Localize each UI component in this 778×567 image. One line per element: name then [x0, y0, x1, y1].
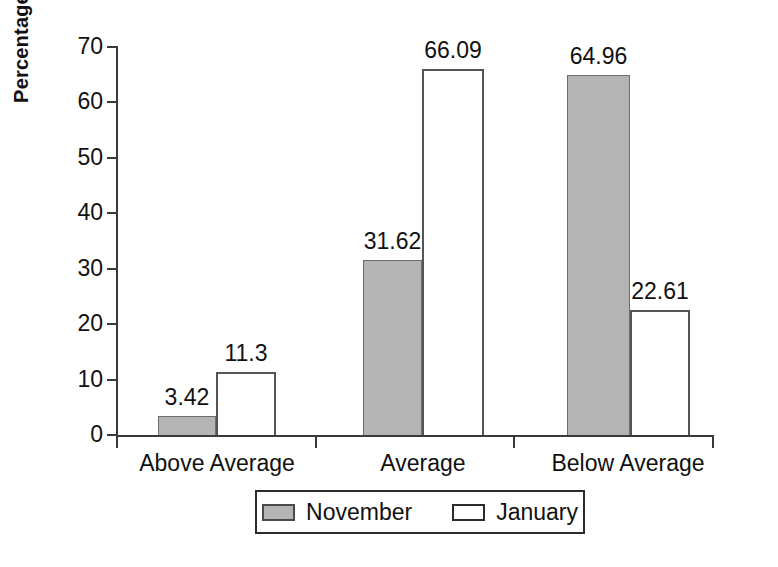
y-tick-label: 0: [43, 423, 103, 446]
y-tick-60: [107, 101, 117, 103]
bar-november-average: [363, 260, 422, 435]
y-tick-label: 60: [43, 90, 103, 113]
y-tick-50: [107, 157, 117, 159]
y-tick-20: [107, 323, 117, 325]
x-axis-line: [116, 435, 714, 437]
category-label-below-average: Below Average: [508, 450, 748, 476]
y-tick-label: 50: [43, 146, 103, 169]
y-tick-label: 10: [43, 368, 103, 391]
y-tick-label: 40: [43, 201, 103, 224]
bar-value-label: 22.61: [605, 280, 715, 303]
y-tick-70: [107, 46, 117, 48]
legend-item-november: November: [262, 501, 412, 524]
legend-item-january: January: [452, 501, 578, 524]
y-tick-10: [107, 379, 117, 381]
x-tick: [116, 437, 118, 448]
y-tick-label: 20: [43, 312, 103, 335]
bar-january-average: [422, 69, 484, 435]
chart-legend: NovemberJanuary: [255, 490, 585, 534]
bar-november-below-average: [567, 75, 630, 435]
bar-value-label: 66.09: [398, 39, 508, 62]
category-label-average: Average: [303, 450, 543, 476]
y-axis-title: Percentage of Students: [4, 0, 38, 134]
y-tick-0: [107, 434, 117, 436]
y-tick-label: 70: [43, 35, 103, 58]
bar-january-above-average: [216, 372, 276, 435]
y-tick-30: [107, 268, 117, 270]
legend-swatch-january: [452, 504, 485, 521]
x-tick: [712, 437, 714, 448]
legend-label: November: [306, 501, 412, 524]
x-tick: [513, 437, 515, 448]
bar-value-label: 64.96: [544, 45, 654, 68]
bar-value-label: 11.3: [191, 342, 301, 365]
legend-label: January: [496, 501, 578, 524]
y-tick-label: 30: [43, 257, 103, 280]
bar-january-below-average: [630, 310, 690, 435]
bar-chart: Percentage of Students 010203040506070 3…: [0, 0, 778, 567]
category-label-above-average: Above Average: [97, 450, 337, 476]
bar-november-above-average: [158, 416, 216, 435]
x-tick: [315, 437, 317, 448]
legend-swatch-november: [262, 504, 295, 521]
y-tick-40: [107, 212, 117, 214]
